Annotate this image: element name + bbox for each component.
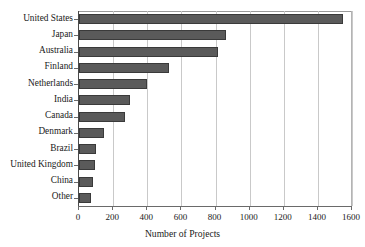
gridline-1200 [284, 11, 285, 206]
y-axis-label: Other [52, 190, 73, 203]
bar [79, 14, 343, 24]
y-axis-tick [74, 35, 78, 36]
y-axis-tick [74, 165, 78, 166]
x-axis-tick-label: 1000 [240, 212, 258, 222]
x-axis-tick-label: 800 [208, 212, 222, 222]
bar [79, 112, 125, 122]
bar [79, 95, 130, 105]
y-axis-tick [74, 133, 78, 134]
bar [79, 160, 95, 170]
x-axis-tick-label: 200 [105, 212, 119, 222]
bar [79, 193, 91, 203]
y-axis-tick [74, 149, 78, 150]
y-axis-tick [74, 68, 78, 69]
x-axis-tick [283, 206, 284, 210]
x-axis-tick-label: 600 [174, 212, 188, 222]
x-axis-tick [317, 206, 318, 210]
y-axis-label: Canada [45, 109, 73, 122]
x-axis-tick-label: 400 [140, 212, 154, 222]
bar [79, 63, 169, 73]
x-axis-tick [249, 206, 250, 210]
y-axis-tick [74, 100, 78, 101]
y-axis-tick [74, 117, 78, 118]
y-axis-label: Netherlands [28, 77, 73, 90]
x-axis-tick-label: 1400 [308, 212, 326, 222]
y-axis-label: United Kingdom [10, 158, 73, 171]
y-axis-label: China [51, 174, 73, 187]
y-axis-label: Australia [39, 44, 73, 57]
x-axis-tick [215, 206, 216, 210]
x-axis-tick [112, 206, 113, 210]
x-axis-tick-label: 1600 [342, 212, 360, 222]
bar [79, 79, 147, 89]
y-axis-label: Brazil [50, 142, 73, 155]
x-axis-title: Number of Projects [0, 228, 365, 239]
bar-chart: United StatesJapanAustraliaFinlandNether… [0, 0, 365, 247]
y-axis-label: Denmark [38, 125, 73, 138]
x-axis-tick-label: 0 [76, 212, 81, 222]
gridline-1000 [250, 11, 251, 206]
x-axis-tick [146, 206, 147, 210]
bar [79, 177, 93, 187]
y-axis-label: Japan [52, 28, 73, 41]
x-axis-tick [351, 206, 352, 210]
y-axis-category-labels: United StatesJapanAustraliaFinlandNether… [0, 10, 75, 206]
x-axis-tick [78, 206, 79, 210]
gridline-1600 [352, 11, 353, 206]
y-axis-label: United States [23, 12, 73, 25]
y-axis-tick [74, 52, 78, 53]
bar [79, 47, 218, 57]
y-axis-label: Finland [45, 60, 73, 73]
bar [79, 30, 226, 40]
y-axis-label: India [54, 93, 73, 106]
bar [79, 144, 96, 154]
y-axis-tick [74, 19, 78, 20]
x-axis-tick [180, 206, 181, 210]
x-axis-tick-label: 1200 [274, 212, 292, 222]
bar [79, 128, 104, 138]
gridline-1400 [318, 11, 319, 206]
y-axis-tick [74, 84, 78, 85]
chart-title-clipped [12, 0, 192, 1]
plot-area [78, 11, 351, 206]
y-axis-tick [74, 182, 78, 183]
y-axis-tick [74, 198, 78, 199]
